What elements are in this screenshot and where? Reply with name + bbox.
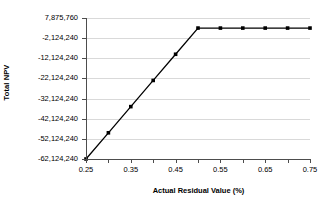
x-axis-tick-mark	[176, 160, 177, 163]
x-axis-title: Actual Residual Value (%)	[86, 186, 311, 195]
y-axis-tick-label: -62,124,240	[14, 155, 78, 163]
y-axis-tick-mark	[82, 38, 86, 39]
data-point-marker	[129, 105, 133, 109]
series-total-npv	[86, 18, 310, 159]
y-axis-tick-label: -32,124,240	[14, 95, 78, 103]
y-axis-tick-label: -2,124,240	[14, 34, 78, 42]
data-point-marker	[174, 52, 178, 56]
x-axis-tick-mark	[243, 160, 244, 163]
y-axis-tick-label: -52,124,240	[14, 135, 78, 143]
y-axis-tick-mark	[82, 58, 86, 59]
data-point-marker	[286, 26, 290, 30]
x-axis-tick-label: 0.65	[258, 165, 273, 174]
x-axis-tick-label: 0.35	[123, 165, 138, 174]
data-point-marker	[308, 26, 312, 30]
x-axis-tick-mark	[310, 160, 311, 163]
y-axis-title: Total NPV	[0, 0, 14, 165]
x-axis-tick-mark	[265, 160, 266, 163]
y-axis-line	[86, 18, 87, 160]
x-axis-tick-label: 0.25	[79, 165, 94, 174]
x-axis-tick-mark	[220, 160, 221, 163]
data-point-marker	[196, 26, 200, 30]
y-axis-tick-mark	[82, 119, 86, 120]
y-axis-tick-mark	[82, 78, 86, 79]
data-point-marker	[241, 26, 245, 30]
data-point-marker	[219, 26, 223, 30]
npv-line-chart: Total NPV 7,875,760-2,124,240-12,124,240…	[0, 0, 327, 206]
data-point-marker	[107, 131, 111, 135]
x-axis-tick-labels: 0.250.350.450.550.650.75	[0, 165, 327, 177]
x-axis-tick-label: 0.75	[303, 165, 318, 174]
x-axis-tick-mark	[108, 160, 109, 163]
y-axis-tick-mark	[82, 139, 86, 140]
x-axis-tick-label: 0.55	[213, 165, 228, 174]
y-axis-tick-mark	[82, 99, 86, 100]
y-axis-tick-label: -42,124,240	[14, 115, 78, 123]
x-axis-tick-mark	[198, 160, 199, 163]
plot-area	[86, 18, 310, 159]
y-axis-tick-label: -12,124,240	[14, 54, 78, 62]
x-axis-tick-mark	[288, 160, 289, 163]
series-line	[86, 28, 310, 159]
y-axis-tick-mark	[82, 18, 86, 19]
y-axis-tick-label: -22,124,240	[14, 74, 78, 82]
x-axis-tick-mark	[153, 160, 154, 163]
x-axis-tick-mark	[131, 160, 132, 163]
y-axis-tick-labels: 7,875,760-2,124,240-12,124,240-22,124,24…	[14, 18, 82, 159]
data-point-marker	[151, 79, 155, 83]
x-axis-tick-label: 0.45	[168, 165, 183, 174]
data-point-marker	[263, 26, 267, 30]
x-axis-tick-mark	[86, 160, 87, 163]
y-axis-title-label: Total NPV	[3, 65, 12, 101]
y-axis-tick-label: 7,875,760	[14, 14, 78, 22]
